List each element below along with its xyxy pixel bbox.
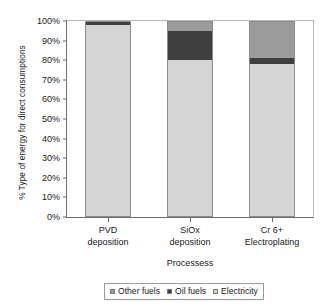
chart-figure: % Type of energy for direct consumptions… <box>0 0 328 308</box>
x-axis-category-label-line: Electroplating <box>224 237 320 249</box>
y-axis-tick-mark <box>63 158 67 159</box>
y-axis-tick-mark <box>63 99 67 100</box>
legend-item[interactable]: Electricity <box>213 286 258 297</box>
legend-label: Electricity <box>221 286 258 297</box>
x-axis-category-label: Cr 6+Electroplating <box>224 225 320 248</box>
legend-item[interactable]: Oil fuels <box>167 286 206 297</box>
bar-segment-other-fuels[interactable] <box>167 21 213 31</box>
x-axis-tick-mark <box>108 217 109 222</box>
y-axis-tick-mark <box>63 40 67 41</box>
legend-label: Other fuels <box>118 286 160 297</box>
bar-segment-electricity[interactable] <box>249 64 295 217</box>
y-axis-tick-mark <box>63 60 67 61</box>
bar-segment-electricity[interactable] <box>85 25 131 217</box>
y-axis-tick-mark <box>63 217 67 218</box>
y-axis-tick-mark <box>63 177 67 178</box>
legend-swatch-icon <box>167 289 172 294</box>
bar-segment-electricity[interactable] <box>167 60 213 217</box>
legend-swatch-icon <box>213 289 218 294</box>
x-axis-title: Processess <box>66 258 314 268</box>
y-axis-tick-mark <box>63 138 67 139</box>
legend-swatch-icon <box>110 289 115 294</box>
chart-legend: Other fuelsOil fuelsElectricity <box>104 283 264 300</box>
legend-item[interactable]: Other fuels <box>110 286 160 297</box>
bar-segment-other-fuels[interactable] <box>249 21 295 58</box>
y-axis-tick-mark <box>63 79 67 80</box>
x-axis-tick-mark <box>190 217 191 222</box>
bar-column[interactable] <box>85 21 131 217</box>
legend-label: Oil fuels <box>175 286 206 297</box>
bar-column[interactable] <box>249 21 295 217</box>
plot-inner: 0%10%20%30%40%50%60%70%80%90%100%PVDdepo… <box>67 21 313 217</box>
y-axis-tick-mark <box>63 21 67 22</box>
x-axis-category-label-line: Cr 6+ <box>224 225 320 237</box>
plot-area: 0%10%20%30%40%50%60%70%80%90%100%PVDdepo… <box>66 20 314 218</box>
bar-segment-oil-fuels[interactable] <box>167 31 213 60</box>
y-axis-title: % Type of energy for direct consumptions <box>18 13 27 233</box>
y-axis-tick-mark <box>63 197 67 198</box>
bar-column[interactable] <box>167 21 213 217</box>
x-axis-tick-mark <box>272 217 273 222</box>
